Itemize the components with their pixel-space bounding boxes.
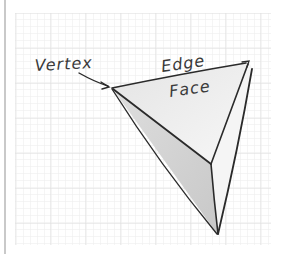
- vertex-label: Vertex: [34, 53, 93, 75]
- diagram-canvas: Vertex Edge Face: [0, 0, 294, 254]
